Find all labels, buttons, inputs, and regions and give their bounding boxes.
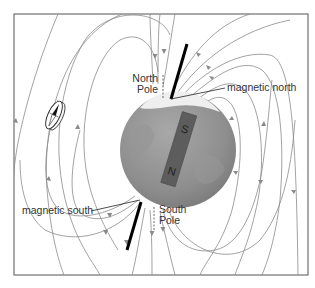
compass-icon xyxy=(42,99,68,133)
magnetic-field-diagram: S N xyxy=(0,0,315,288)
south-pole-label: South Pole xyxy=(159,204,186,226)
magnetic-south-label: magnetic south xyxy=(22,205,93,216)
north-pole-label: North Pole xyxy=(118,73,158,95)
magnetic-north-label: magnetic north xyxy=(227,82,296,93)
north-pole-label-line2: Pole xyxy=(118,84,158,95)
magnetic-south-leader xyxy=(91,200,140,211)
south-pole-label-line2: Pole xyxy=(159,215,186,226)
